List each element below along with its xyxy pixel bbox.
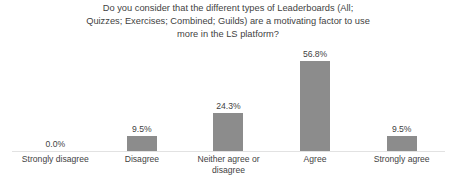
- bar-slot: 9.5%: [99, 48, 186, 151]
- chart-title: Do you consider that the different types…: [18, 2, 438, 42]
- bar-data-label: 56.8%: [303, 49, 327, 59]
- bar-slot: 56.8%: [272, 48, 359, 151]
- bar-series: 0.0% 9.5% 24.3% 56.8% 9.5%: [12, 48, 445, 151]
- bar-data-label: 9.5%: [392, 124, 412, 134]
- category-label-agree: Agree: [272, 153, 359, 177]
- category-label-strongly-disagree: Strongly disagree: [12, 153, 99, 177]
- bar-rect[interactable]: [213, 113, 243, 152]
- bar-slot: 0.0%: [12, 48, 99, 151]
- category-label-strongly-agree: Strongly agree: [358, 153, 445, 177]
- bar-data-label: 24.3%: [216, 101, 240, 111]
- bar-rect[interactable]: [127, 136, 157, 151]
- category-label-neither-agree-or-disagree: Neither agree or disagree: [185, 153, 272, 177]
- chart-title-line-2: Quizzes; Exercises; Combined; Guilds) ar…: [18, 15, 438, 28]
- bar-slot: 24.3%: [185, 48, 272, 151]
- bar-data-label: 0.0%: [46, 139, 66, 149]
- bar-slot: 9.5%: [358, 48, 445, 151]
- bar-data-label: 9.5%: [132, 124, 152, 134]
- bar-chart: Do you consider that the different types…: [0, 0, 456, 186]
- bar-rect[interactable]: [387, 136, 417, 151]
- chart-title-line-3: more in the LS platform?: [18, 28, 438, 41]
- plot-area: 0.0% 9.5% 24.3% 56.8% 9.5%: [0, 48, 456, 152]
- bar-rect[interactable]: [300, 61, 330, 151]
- chart-title-line-1: Do you consider that the different types…: [18, 2, 438, 15]
- category-axis-line: [12, 151, 445, 152]
- category-label-disagree: Disagree: [99, 153, 186, 177]
- category-axis-labels: Strongly disagree Disagree Neither agree…: [12, 153, 445, 177]
